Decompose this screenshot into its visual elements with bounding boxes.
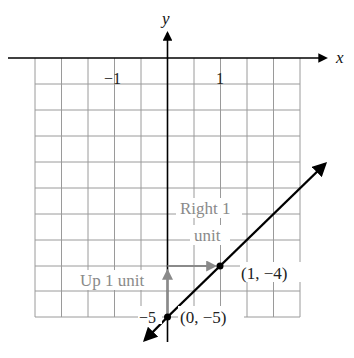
point-0-neg5: [164, 314, 171, 321]
y-tick-neg5: −5: [139, 309, 156, 326]
x-axis-label: x: [335, 48, 344, 67]
x-tick-1: 1: [216, 70, 224, 87]
up-1-unit-label: Up 1 unit: [80, 271, 145, 290]
coordinate-graph: x y −1 1 Right 1 unit Up 1 unit −5 (0, −…: [0, 0, 354, 358]
x-tick-neg1: −1: [104, 70, 121, 87]
right-1-label: Right 1: [180, 199, 231, 218]
point-1-neg4: [217, 263, 224, 270]
y-axis-label: y: [160, 9, 170, 28]
point-label-1-neg4: (1, −4): [241, 264, 287, 283]
unit-label: unit: [194, 226, 221, 245]
point-label-0-neg5: (0, −5): [180, 308, 226, 327]
